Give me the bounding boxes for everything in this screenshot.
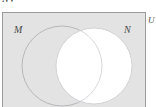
venn-diagram-figure: NV M N U — [0, 0, 156, 107]
label-set-m: M — [13, 24, 23, 35]
circle-set-n — [56, 28, 132, 104]
label-universal-set: U — [148, 15, 155, 25]
venn-diagram-canvas: M N U — [0, 0, 156, 107]
label-set-n: N — [123, 24, 132, 35]
